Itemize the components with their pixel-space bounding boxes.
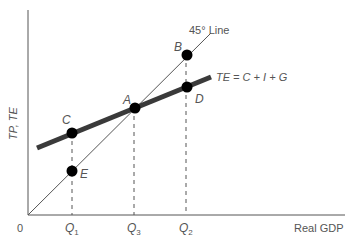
q3-label: Q3 <box>127 221 141 237</box>
point-a <box>130 103 141 114</box>
line-45-label: 45° Line <box>189 24 230 36</box>
point-e-label: E <box>80 167 89 181</box>
q2-label: Q2 <box>179 221 193 237</box>
point-d <box>182 82 193 93</box>
x-axis-label: Real GDP <box>294 222 344 234</box>
point-c-label: C <box>62 113 71 127</box>
point-a-label: A <box>122 93 131 107</box>
q1-label: Q1 <box>65 221 79 237</box>
origin-label: 0 <box>17 222 23 234</box>
point-b-label: B <box>174 40 182 54</box>
y-axis-label: TP, TE <box>7 107 19 140</box>
te-equation-label: TE = C + I + G <box>216 71 288 83</box>
point-e <box>67 166 78 177</box>
point-d-label: D <box>195 92 204 106</box>
keynesian-cross-diagram: A B C D E 45° Line TE = C + I + G TP, TE… <box>0 0 347 239</box>
point-b <box>182 50 193 61</box>
line-45-degree <box>28 33 211 215</box>
point-c <box>67 128 78 139</box>
